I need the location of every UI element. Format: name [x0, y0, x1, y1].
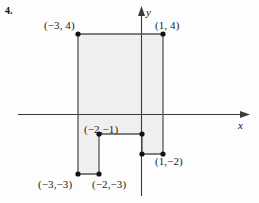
shaded-region [78, 34, 163, 174]
vertex-dot-0--1 [139, 131, 144, 136]
vertex-dot--3-4 [75, 31, 80, 36]
coordinate-plane-figure: 4. (−3, 4) (1, 4) (−2,−1) (1,− [0, 0, 259, 203]
vertex-dot--2--3 [96, 171, 101, 176]
plot-svg [0, 0, 259, 203]
point-label--2--3: (−2,−3) [92, 178, 126, 190]
point-label-1-4: (1, 4) [155, 19, 179, 31]
point-label-1--2: (1,−2) [155, 155, 183, 167]
point-label--2--1: (−2,−1) [84, 123, 118, 135]
vertex-dot-1-4 [160, 31, 165, 36]
vertex-dot--3--3 [75, 171, 80, 176]
y-axis-label: y [146, 6, 151, 18]
point-label--3--3: (−3,−3) [38, 178, 72, 190]
vertex-dot-0--2 [139, 151, 144, 156]
point-label--3-4: (−3, 4) [44, 19, 75, 31]
x-axis-label: x [238, 119, 243, 131]
